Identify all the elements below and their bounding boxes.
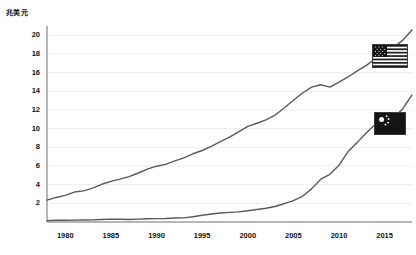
y-axis-tick-20: 20 bbox=[18, 30, 40, 39]
x-axis-tick-2000: 2000 bbox=[231, 231, 265, 240]
x-axis-tick-2010: 2010 bbox=[322, 231, 356, 240]
x-axis-tick-2015: 2015 bbox=[368, 231, 402, 240]
x-axis-tick-1995: 1995 bbox=[185, 231, 219, 240]
united-states-flag bbox=[372, 44, 408, 68]
y-axis-tick-14: 14 bbox=[18, 86, 40, 95]
y-axis-tick-8: 8 bbox=[18, 142, 40, 151]
axis-lines bbox=[47, 26, 412, 222]
x-axis-tick-2005: 2005 bbox=[276, 231, 310, 240]
x-axis-tick-1980: 1980 bbox=[48, 231, 82, 240]
x-axis-tick-1985: 1985 bbox=[94, 231, 128, 240]
y-axis-tick-12: 12 bbox=[18, 105, 40, 114]
gdp-comparison-chart: 兆美元 2468101214161820 1980198519901995200… bbox=[0, 0, 416, 255]
gridlines bbox=[47, 35, 412, 203]
x-axis-tick-1990: 1990 bbox=[140, 231, 174, 240]
china-flag-glyph bbox=[375, 113, 405, 134]
china-flag bbox=[374, 112, 406, 135]
plot-area bbox=[0, 0, 416, 255]
y-axis-tick-2: 2 bbox=[18, 198, 40, 207]
y-axis-tick-10: 10 bbox=[18, 124, 40, 133]
series-line-china bbox=[47, 95, 412, 221]
y-axis-tick-18: 18 bbox=[18, 49, 40, 58]
y-axis-tick-6: 6 bbox=[18, 161, 40, 170]
united-states-flag-glyph bbox=[373, 45, 407, 67]
y-axis-tick-16: 16 bbox=[18, 68, 40, 77]
series-line-united-states bbox=[47, 30, 412, 200]
y-axis-tick-4: 4 bbox=[18, 180, 40, 189]
